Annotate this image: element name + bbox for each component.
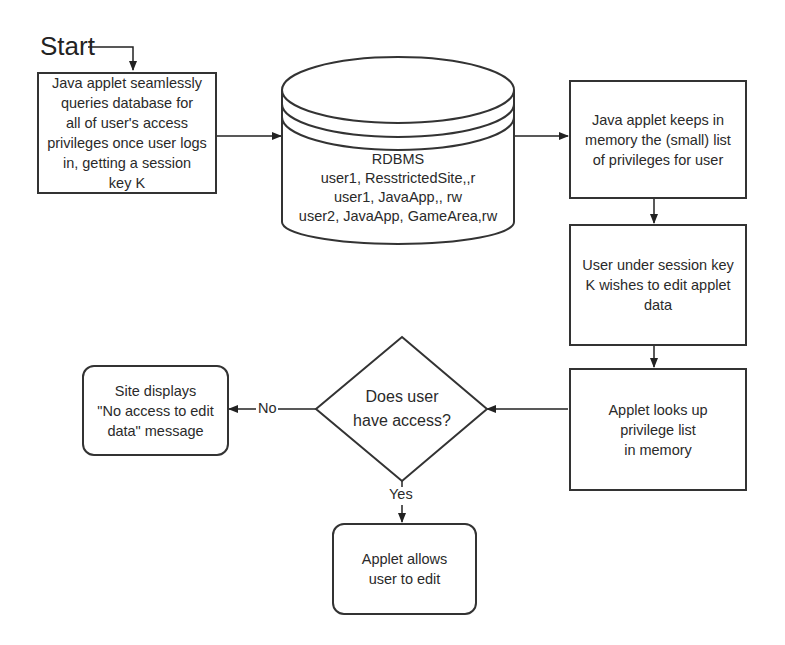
text-line: all of user's access xyxy=(47,113,207,133)
text-line: Applet allows xyxy=(362,549,447,569)
node-look-up-privileges: Applet looks up privilege list in memory xyxy=(569,368,747,491)
text-line: memory the (small) list xyxy=(585,130,731,150)
text-line: in, getting a session xyxy=(47,153,207,173)
text-line: Applet looks up xyxy=(608,400,707,420)
database-row: user1, ResstrictedSite,,r xyxy=(282,169,514,188)
text-line: key K xyxy=(47,173,207,193)
text-line: Does user xyxy=(353,385,451,409)
text-line: "No access to edit xyxy=(97,401,213,421)
text-line: data" message xyxy=(97,421,213,441)
node-no-access-message: Site displays "No access to edit data" m… xyxy=(82,365,229,456)
node-query-database: Java applet seamlessly queries database … xyxy=(37,72,217,194)
text-line: privileges once user logs xyxy=(47,133,207,153)
node-keep-in-memory: Java applet keeps in memory the (small) … xyxy=(569,80,747,199)
text-line: user to edit xyxy=(362,569,447,589)
text-line: Site displays xyxy=(97,381,213,401)
text-line: K wishes to edit applet xyxy=(582,275,734,295)
text-line: of privileges for user xyxy=(585,150,731,170)
start-label: Start xyxy=(40,31,95,62)
text-line: privilege list xyxy=(608,420,707,440)
text-line: queries database for xyxy=(47,93,207,113)
text-line: have access? xyxy=(353,409,451,433)
node-database: RDBMS user1, ResstrictedSite,,r user1, J… xyxy=(282,150,514,226)
database-title: RDBMS xyxy=(282,150,514,169)
database-row: user2, JavaApp, GameArea,rw xyxy=(282,207,514,226)
database-row: user1, JavaApp,, rw xyxy=(282,188,514,207)
text-line: in memory xyxy=(608,440,707,460)
node-decision-access: Does user have access? xyxy=(330,382,474,436)
text-line: User under session key xyxy=(582,255,734,275)
text-line: Java applet keeps in xyxy=(585,110,731,130)
text-line: data xyxy=(582,295,734,315)
node-allow-edit: Applet allows user to edit xyxy=(332,523,477,615)
edge-label-yes: Yes xyxy=(389,486,413,502)
edge-label-no: No xyxy=(258,400,277,416)
text-line: Java applet seamlessly xyxy=(47,73,207,93)
node-wishes-to-edit: User under session key K wishes to edit … xyxy=(569,224,747,346)
